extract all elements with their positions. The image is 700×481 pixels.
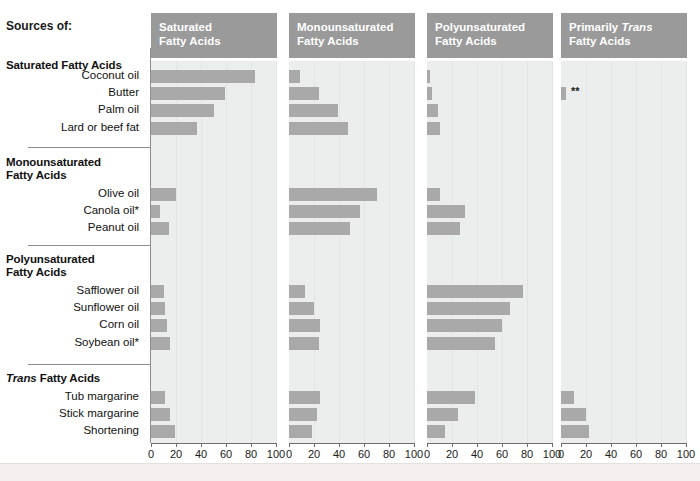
axis-tick [251, 443, 252, 447]
bar [289, 222, 350, 235]
axis-tick-label: 20 [170, 448, 182, 460]
bar [427, 70, 430, 83]
section-divider [28, 147, 151, 148]
bar [289, 104, 338, 117]
bar [289, 205, 360, 218]
gridline [414, 61, 415, 443]
panel-4: Primarily TransFatty Acids020406080100 [561, 13, 687, 455]
axis-tick [339, 443, 340, 447]
panel-plot-area [289, 61, 415, 443]
row-label: Safflower oil [0, 284, 145, 296]
gridline [276, 61, 277, 443]
gridline [314, 61, 315, 443]
axis-tick [561, 443, 562, 447]
gridline [636, 61, 637, 443]
row-label: Peanut oil [0, 221, 145, 233]
panel-plot-area [427, 61, 553, 443]
row-label: Corn oil [0, 318, 145, 330]
axis-tick [414, 443, 415, 447]
axis-tick [364, 443, 365, 447]
axis-tick [314, 443, 315, 447]
axis-tick-label: 0 [424, 448, 430, 460]
axis-tick [636, 443, 637, 447]
group-heading: Trans Fatty Acids [0, 372, 145, 384]
bar [427, 337, 495, 350]
axis-tick [276, 443, 277, 447]
bar [289, 408, 317, 421]
axis-tick-label: 60 [358, 448, 370, 460]
axis-tick-label: 80 [245, 448, 257, 460]
axis-tick-label: 20 [446, 448, 458, 460]
bar [289, 87, 319, 100]
gridline [611, 61, 612, 443]
bar [427, 391, 475, 404]
axis-line [427, 443, 553, 444]
axis-tick [226, 443, 227, 447]
axis-tick [427, 443, 428, 447]
double-asterisk-note: ** [571, 85, 580, 97]
bar [289, 285, 305, 298]
axis-tick [611, 443, 612, 447]
gridline [364, 61, 365, 443]
bar [289, 391, 320, 404]
axis-tick-label: 100 [677, 448, 695, 460]
bar [427, 425, 445, 438]
axis-tick-label: 60 [630, 448, 642, 460]
row-label-column: Sources of: Saturated Fatty AcidsMonouns… [0, 0, 151, 455]
group-heading: MonounsaturatedFatty Acids [0, 156, 145, 182]
gridline [477, 61, 478, 443]
axis-tick [527, 443, 528, 447]
bar [151, 302, 165, 315]
axis-tick-label: 40 [605, 448, 617, 460]
gridline [527, 61, 528, 443]
fatty-acid-sources-chart: Sources of: Saturated Fatty AcidsMonouns… [0, 0, 700, 481]
axis-tick-label: 100 [267, 448, 285, 460]
row-label: Butter [0, 86, 145, 98]
panel-header: SaturatedFatty Acids [151, 13, 277, 58]
gridline [686, 61, 687, 443]
bar [427, 122, 440, 135]
bar [289, 188, 377, 201]
panel-plot-area [561, 61, 687, 443]
bar [289, 122, 348, 135]
gridline [201, 61, 202, 443]
gridline [339, 61, 340, 443]
bar [427, 285, 523, 298]
bar [289, 337, 319, 350]
row-label: Tub margarine [0, 390, 145, 402]
gridline [661, 61, 662, 443]
axis-tick [552, 443, 553, 447]
gridline [251, 61, 252, 443]
bar [151, 337, 170, 350]
bar [151, 319, 167, 332]
panel-plot-area [151, 61, 277, 443]
row-label: Stick margarine [0, 407, 145, 419]
bar [151, 408, 170, 421]
sources-heading: Sources of: [0, 19, 145, 33]
axis-tick-label: 60 [220, 448, 232, 460]
bar [427, 87, 432, 100]
bar [289, 319, 320, 332]
row-label: Palm oil [0, 103, 145, 115]
axis-tick-label: 60 [496, 448, 508, 460]
axis-tick-label: 100 [405, 448, 423, 460]
gridline [226, 61, 227, 443]
bar [427, 302, 510, 315]
bar [427, 319, 502, 332]
bar [289, 70, 300, 83]
x-axis: 020406080100 [289, 443, 419, 468]
panel-header: MonounsaturatedFatty Acids [289, 13, 415, 58]
bar [151, 205, 160, 218]
x-axis: 020406080100 [561, 443, 691, 468]
row-label: Sunflower oil [0, 301, 145, 313]
row-label: Soybean oil* [0, 336, 145, 348]
panel-header: PolyunsaturatedFatty Acids [427, 13, 553, 58]
gridline [552, 61, 553, 443]
axis-tick [176, 443, 177, 447]
section-divider [28, 245, 151, 246]
x-axis: 020406080100 [151, 443, 281, 468]
bar [561, 408, 586, 421]
axis-tick [661, 443, 662, 447]
axis-tick [477, 443, 478, 447]
panel-header: Primarily TransFatty Acids [561, 13, 687, 58]
